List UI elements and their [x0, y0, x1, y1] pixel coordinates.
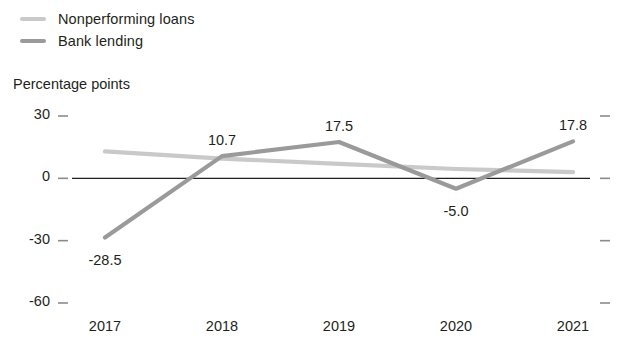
chart-plot-area: 300-30-6020172018201920202021-28.510.717… — [0, 0, 622, 353]
data-point-label: -28.5 — [70, 252, 140, 268]
data-point-label: 10.7 — [187, 132, 257, 148]
chart-svg — [0, 0, 622, 353]
data-point-label: -5.0 — [421, 203, 491, 219]
y-axis-tick-label: 30 — [8, 106, 50, 122]
data-point-label: 17.8 — [538, 117, 608, 133]
x-axis-tick-label: 2021 — [538, 318, 608, 334]
data-point-label: 17.5 — [304, 118, 374, 134]
x-axis-tick-label: 2019 — [304, 318, 374, 334]
x-axis-tick-label: 2018 — [187, 318, 257, 334]
x-axis-tick-label: 2020 — [421, 318, 491, 334]
y-axis-tick-label: 0 — [8, 168, 50, 184]
y-axis-tick-label: -60 — [8, 293, 50, 309]
y-axis-tick-label: -30 — [8, 231, 50, 247]
x-axis-tick-label: 2017 — [70, 318, 140, 334]
